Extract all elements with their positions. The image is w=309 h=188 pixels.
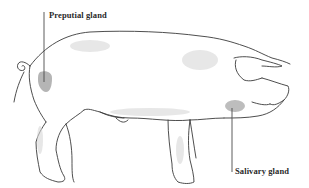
salivary-gland-region xyxy=(225,100,245,112)
pig-illustration xyxy=(0,0,309,188)
pig-body-outline xyxy=(14,31,290,183)
preputial-gland-region xyxy=(38,71,52,92)
preputial-gland-label: Preputial gland xyxy=(49,10,107,20)
salivary-gland-label: Salivary gland xyxy=(235,166,289,176)
pig-shading xyxy=(37,40,218,164)
